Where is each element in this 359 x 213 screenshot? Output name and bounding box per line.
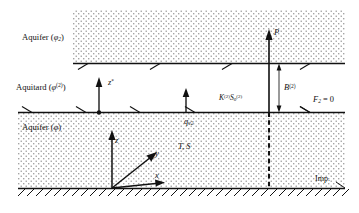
aquitard-text: Aquitard ( (16, 82, 52, 92)
lower-aquifer-close: ) (58, 122, 61, 132)
label-impermeable-base: Imp. (315, 175, 330, 183)
aquitard-s-superscript: (2) (236, 94, 242, 99)
label-aquitard-thickness: B(2) (284, 84, 296, 93)
label-aquitard-properties: K(2)S0(2) (219, 94, 242, 102)
label-axis-z-star: z* (108, 79, 114, 88)
aquitard-superscript: (2) (56, 82, 63, 88)
upper-aquifer-close: ) (61, 32, 64, 42)
thickness-superscript: (2) (289, 83, 295, 89)
label-axis-x: x (155, 172, 159, 180)
z-star-superscript: * (111, 78, 114, 84)
label-axis-z: z (115, 137, 118, 145)
label-lower-aquifer: Aquifer (φ) (22, 123, 61, 132)
label-axis-y: y (155, 150, 159, 158)
upper-aquifer-text: Aquifer ( (22, 32, 54, 42)
label-aquitard: Aquitard (φ(2)) (16, 83, 66, 92)
aquitard-close: ) (63, 82, 66, 92)
label-aquifer-properties: T, S (178, 143, 190, 151)
label-pumping-rate: P (274, 29, 279, 37)
label-upper-aquifer: Aquifer (φ2) (22, 33, 64, 43)
bc-equation: = 0 (321, 95, 334, 104)
label-boundary-condition: F2 = 0 (313, 96, 334, 105)
flux-subscript: v2 (188, 120, 193, 126)
impermeable-base-boundary (18, 189, 349, 197)
upper-aquifer-fill (73, 10, 345, 63)
lower-aquifer-text: Aquifer ( (22, 122, 54, 132)
figure-canvas: Aquifer (φ2) Aquitard (φ(2)) Aquifer (φ)… (0, 0, 359, 213)
label-leakage-flux: qv2 (184, 118, 193, 127)
